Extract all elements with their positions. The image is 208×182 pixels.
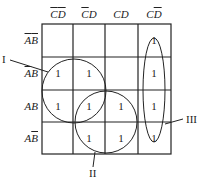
- group-label-II: II: [89, 167, 96, 179]
- group-label-I: I: [2, 53, 6, 65]
- kmap-grid: [0, 0, 208, 182]
- group-label-III: III: [186, 113, 197, 125]
- group-I-loop: [42, 59, 106, 123]
